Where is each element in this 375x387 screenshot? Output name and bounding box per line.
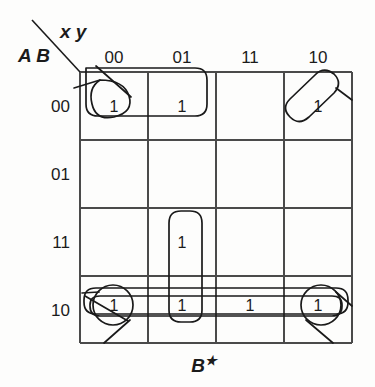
cell-value-r10-c00: 1 bbox=[110, 297, 119, 314]
column-header-2: 11 bbox=[241, 48, 259, 67]
group-tail-top-left-out bbox=[96, 66, 131, 97]
figure-caption: B★ bbox=[191, 353, 219, 376]
row-header-3: 10 bbox=[51, 301, 70, 320]
group-tail-bottom-left-in bbox=[82, 292, 99, 293]
group-loop-top-pair bbox=[86, 68, 207, 116]
group-tail-bottom-left-mid bbox=[85, 296, 128, 321]
cell-value-r10-c10: 1 bbox=[314, 297, 323, 314]
group-tail-top-right bbox=[336, 88, 352, 100]
cell-value-r10-c11: 1 bbox=[246, 297, 255, 314]
cell-value-r11-c01: 1 bbox=[178, 234, 187, 251]
column-variables-label: x y bbox=[59, 21, 88, 42]
group-loop-top-right-lozenge bbox=[286, 70, 339, 121]
group-tail-bottom-left-out bbox=[104, 320, 130, 343]
column-header-0: 00 bbox=[105, 48, 124, 67]
column-header-1: 01 bbox=[173, 48, 192, 67]
figure-caption-star-icon: ★ bbox=[205, 353, 219, 368]
cell-value-r10-c01: 1 bbox=[178, 297, 187, 314]
row-header-0: 00 bbox=[51, 97, 70, 116]
row-header-2: 11 bbox=[52, 233, 70, 252]
column-header-3: 10 bbox=[309, 48, 328, 67]
cell-value-r00-c01: 1 bbox=[178, 98, 187, 115]
kmap-grid bbox=[80, 72, 352, 343]
row-variables-label: A B bbox=[17, 45, 50, 66]
karnaugh-map-canvas: x y A B 00 01 11 10 00 01 11 10 1 1 1 1 … bbox=[0, 0, 375, 387]
cell-value-r00-c10: 1 bbox=[314, 98, 323, 115]
group-tail-bottom-right-in bbox=[336, 292, 352, 306]
row-header-1: 01 bbox=[51, 165, 70, 184]
cell-value-r00-c00: 1 bbox=[110, 98, 119, 115]
karnaugh-map-figure: x y A B 00 01 11 10 00 01 11 10 1 1 1 1 … bbox=[0, 0, 375, 387]
figure-caption-letter: B bbox=[191, 355, 205, 376]
